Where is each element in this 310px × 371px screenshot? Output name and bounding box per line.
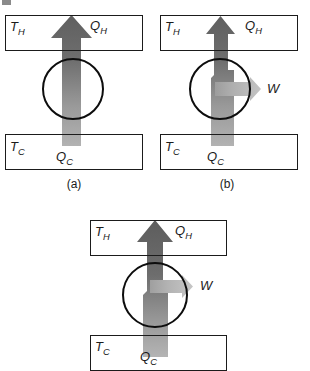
panel-b: TH QH TC QC W (b) (155, 0, 310, 200)
engine-circle-a (42, 58, 104, 120)
engine-circle-c (122, 262, 188, 328)
heat-cold-symbol-a: Q (56, 149, 66, 164)
heat-cold-label-a: QC (56, 150, 73, 167)
heat-cold-subscript-a: C (66, 157, 73, 167)
heat-hot-subscript-b: H (255, 26, 262, 36)
heat-cold-symbol-c: Q (140, 349, 150, 364)
heat-cold-label-c: QC (140, 350, 157, 367)
engine-circle-b (189, 58, 251, 120)
panel-a: TH QH TC QC (a) (0, 0, 150, 200)
heat-hot-subscript-a: H (100, 26, 107, 36)
heat-hot-symbol-b: Q (245, 18, 255, 33)
work-label-b: W (267, 82, 279, 95)
work-label-c: W (200, 279, 212, 292)
heat-hot-label-b: QH (245, 19, 262, 36)
heat-cold-label-b: QC (207, 150, 224, 167)
hot-reservoir-box-a (5, 15, 143, 51)
cold-reservoir-box-a (5, 134, 143, 170)
heat-hot-symbol-a: Q (90, 18, 100, 33)
heat-hot-symbol-c: Q (175, 223, 185, 238)
heat-cold-subscript-b: C (217, 157, 224, 167)
heat-hot-subscript-c: H (185, 231, 192, 241)
heat-cold-symbol-b: Q (207, 149, 217, 164)
heat-cold-subscript-c: C (150, 357, 157, 367)
panel-c: TH QH TC QC W (60, 200, 250, 357)
heat-hot-label-c: QH (175, 224, 192, 241)
heat-hot-label-a: QH (90, 19, 107, 36)
